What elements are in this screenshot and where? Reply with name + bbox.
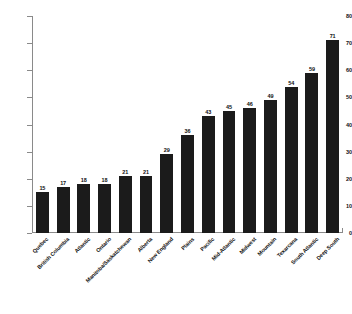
bar <box>326 40 339 233</box>
bar-value-label: 18 <box>81 177 87 183</box>
bar-value-label: 71 <box>330 33 336 39</box>
bar <box>181 135 194 233</box>
bar-slot: 21 <box>140 16 153 233</box>
bar-slot: 46 <box>243 16 256 233</box>
x-axis-category-label: Plains <box>179 236 194 251</box>
bar-slot: 59 <box>305 16 318 233</box>
bar-value-label: 17 <box>60 180 66 186</box>
x-axis-category-labels: QuebecBritish ColumbiaAtlanticOntarioMan… <box>32 234 343 312</box>
bar-chart: 01020304050607080 1517181821212936434546… <box>0 0 352 314</box>
bar-value-label: 21 <box>143 169 149 175</box>
bar-slot: 29 <box>160 16 173 233</box>
bar <box>264 100 277 233</box>
bar-value-label: 21 <box>122 169 128 175</box>
bar-value-label: 29 <box>164 147 170 153</box>
bar-slot: 17 <box>57 16 70 233</box>
bar-slot: 21 <box>119 16 132 233</box>
x-axis-category-label: Quebec <box>32 236 50 254</box>
bar-slot: 71 <box>326 16 339 233</box>
bar-value-label: 18 <box>102 177 108 183</box>
bar <box>77 184 90 233</box>
bar <box>285 87 298 233</box>
bar <box>140 176 153 233</box>
bar-value-label: 54 <box>288 80 294 86</box>
bar-slot: 18 <box>98 16 111 233</box>
bar <box>243 108 256 233</box>
bar <box>119 176 132 233</box>
bar <box>36 192 49 233</box>
bar-value-label: 49 <box>267 93 273 99</box>
x-axis-category-label: Midwest <box>238 236 257 255</box>
bar-slot: 43 <box>202 16 215 233</box>
bar-value-label: 59 <box>309 66 315 72</box>
bar <box>223 111 236 233</box>
bar-slot: 18 <box>77 16 90 233</box>
x-axis-category-label: Pacific <box>199 236 215 252</box>
bar-value-label: 43 <box>205 109 211 115</box>
bars-layer: 151718182121293643454649545971 <box>32 16 343 233</box>
bar-value-label: 36 <box>185 128 191 134</box>
bar-slot: 36 <box>181 16 194 233</box>
bar-slot: 15 <box>36 16 49 233</box>
bar-slot: 54 <box>285 16 298 233</box>
bar-slot: 45 <box>223 16 236 233</box>
bar-value-label: 46 <box>247 101 253 107</box>
x-axis-category-label: Ontario <box>94 236 112 254</box>
bar <box>305 73 318 233</box>
x-axis-category-label: Atlantic <box>73 236 91 254</box>
bar-slot: 49 <box>264 16 277 233</box>
bar <box>160 154 173 233</box>
bar <box>98 184 111 233</box>
bar-value-label: 15 <box>39 185 45 191</box>
bar <box>57 187 70 233</box>
x-axis-category-label: Alberta <box>136 236 153 253</box>
bar <box>202 116 215 233</box>
bar-value-label: 45 <box>226 104 232 110</box>
